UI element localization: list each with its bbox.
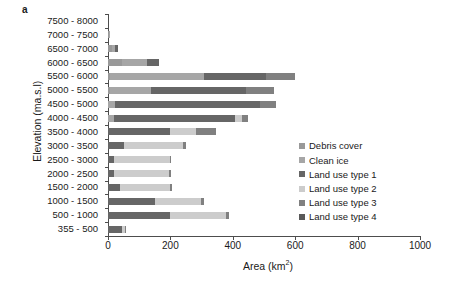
bar-segment (125, 226, 126, 233)
bar-segment (122, 59, 147, 66)
y-axis-tick-label: 6000 - 6500 (0, 58, 98, 68)
y-axis-tick-label: 7500 - 8000 (0, 16, 98, 26)
legend-label: Clean ice (309, 156, 349, 166)
bar-row (108, 128, 216, 135)
bar-row (108, 142, 186, 149)
x-axis-title: Area (km2) (168, 259, 368, 271)
legend-swatch-icon (299, 143, 305, 149)
bar-segment (114, 156, 170, 163)
legend-item[interactable]: Clean ice (299, 153, 449, 167)
bar-row (108, 156, 171, 163)
bar-segment (115, 45, 117, 52)
bar-segment (266, 73, 294, 80)
bar-row (108, 170, 171, 177)
bar-segment (108, 142, 124, 149)
bar-row (108, 87, 274, 94)
bar-segment (155, 198, 201, 205)
bar-segment (124, 142, 183, 149)
bar-segment (110, 87, 151, 94)
bar-segment (246, 87, 274, 94)
bar-segment (108, 226, 122, 233)
bar-row (108, 73, 295, 80)
x-axis-tick-label: 1000 (409, 241, 431, 251)
chart-legend: Debris coverClean iceLand use type 1Land… (299, 139, 449, 224)
bar-segment (109, 31, 110, 38)
legend-item[interactable]: Debris cover (299, 139, 449, 153)
bar-row (108, 31, 110, 38)
legend-item[interactable]: Land use type 3 (299, 196, 449, 210)
bar-segment (196, 128, 216, 135)
legend-label: Land use type 3 (309, 198, 377, 208)
x-axis-title-close: ) (290, 260, 294, 272)
bar-segment (170, 156, 172, 163)
bar-segment (151, 87, 246, 94)
x-axis-tick-label: 800 (349, 241, 366, 251)
legend-label: Land use type 1 (309, 170, 377, 180)
bar-segment (108, 212, 170, 219)
x-axis-tick-label: 0 (105, 241, 111, 251)
bar-segment (170, 184, 172, 191)
x-axis-tick-label: 200 (162, 241, 179, 251)
bar-row (108, 198, 204, 205)
bar-segment (201, 198, 204, 205)
y-axis-tick-label: 2500 - 3000 (0, 155, 98, 165)
legend-swatch-icon (299, 157, 305, 163)
bar-segment (108, 198, 155, 205)
legend-label: Land use type 4 (309, 212, 377, 222)
bar-row (108, 212, 229, 219)
legend-label: Debris cover (309, 141, 362, 151)
y-axis-tick-label: 4000 - 4500 (0, 113, 98, 123)
legend-swatch-icon (299, 186, 305, 192)
legend-item[interactable]: Land use type 4 (299, 210, 449, 224)
y-axis-tick-labels: 7500 - 80007000 - 75006500 - 70006000 - … (0, 14, 104, 236)
bar-segment (114, 115, 236, 122)
bar-segment (115, 101, 260, 108)
chart-figure: a Elevation (ma.s.l) 7500 - 80007000 - 7… (0, 0, 450, 286)
legend-item[interactable]: Land use type 1 (299, 167, 449, 181)
bar-segment (242, 115, 248, 122)
bar-segment (183, 142, 186, 149)
bar-row (108, 59, 159, 66)
y-axis-tick-label: 4500 - 5000 (0, 99, 98, 109)
legend-item[interactable]: Land use type 2 (299, 182, 449, 196)
y-axis-tick-label: 2000 - 2500 (0, 169, 98, 179)
x-axis-title-main: Area (km (243, 260, 286, 272)
x-axis-tick-label: 400 (224, 241, 241, 251)
bar-segment (147, 59, 159, 66)
bar-row (108, 115, 248, 122)
bar-segment (120, 184, 170, 191)
x-axis-tick-label: 600 (287, 241, 304, 251)
y-axis-tick-label: 355 - 500 (0, 224, 98, 234)
bar-row (108, 226, 126, 233)
bar-segment (108, 59, 122, 66)
bar-segment (169, 170, 171, 177)
legend-swatch-icon (299, 200, 305, 206)
y-axis-tick-label: 5000 - 5500 (0, 85, 98, 95)
y-axis-tick-label: 6500 - 7000 (0, 44, 98, 54)
bar-segment (170, 128, 196, 135)
bar-segment (204, 73, 266, 80)
y-axis-tick-label: 5500 - 6000 (0, 71, 98, 81)
bar-segment (110, 73, 204, 80)
bar-segment (108, 128, 170, 135)
bar-segment (260, 101, 276, 108)
bar-row (108, 184, 172, 191)
bar-segment (108, 101, 115, 108)
y-axis-tick-label: 7000 - 7500 (0, 30, 98, 40)
y-axis-tick-label: 500 - 1000 (0, 210, 98, 220)
y-axis-tick-label: 1500 - 2000 (0, 182, 98, 192)
legend-swatch-icon (299, 214, 305, 220)
y-axis-tick-label: 3000 - 3500 (0, 141, 98, 151)
bar-row (108, 45, 118, 52)
legend-label: Land use type 2 (309, 184, 377, 194)
y-axis-tick-label: 1000 - 1500 (0, 196, 98, 206)
x-axis-tick-labels: 02004006008001000 (108, 241, 421, 255)
bar-segment (108, 184, 120, 191)
legend-swatch-icon (299, 171, 305, 177)
bar-segment (170, 212, 226, 219)
y-axis-tick-label: 3500 - 4000 (0, 127, 98, 137)
bar-row (108, 101, 276, 108)
bar-segment (226, 212, 229, 219)
bar-segment (114, 170, 170, 177)
